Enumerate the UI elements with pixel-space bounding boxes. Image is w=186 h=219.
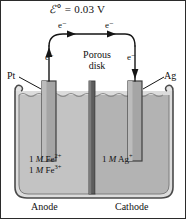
platinum-electrode-label: Pt xyxy=(7,71,15,82)
anode-conc-1: 1 xyxy=(29,154,34,164)
anode-molarity-1: M xyxy=(36,154,44,164)
silver-electrode-highlight xyxy=(128,81,133,161)
wire-arrowhead-left xyxy=(67,31,76,38)
porous-disk-highlight xyxy=(89,81,91,194)
cathode-conc-1: 1 xyxy=(102,154,107,164)
anode-solution-label: 1 M Fe2+ 1 M Fe3+ xyxy=(29,153,61,176)
wire-top-arc xyxy=(49,34,135,46)
silver-electrode-label: Ag xyxy=(164,71,176,82)
emf-symbol: ℰ° xyxy=(49,3,62,16)
anode-charge-2: 3+ xyxy=(55,163,62,170)
anode-label: Anode xyxy=(31,202,58,213)
anode-conc-2: 1 xyxy=(29,165,34,175)
silver-electrode xyxy=(128,81,142,161)
cathode-species-1: Ag xyxy=(118,154,129,164)
anode-species-2: Fe xyxy=(46,165,55,175)
porous-disk-label-line2: disk xyxy=(75,61,119,72)
cathode-molarity-1: M xyxy=(109,154,117,164)
cathode-label: Cathode xyxy=(115,202,148,213)
anode-charge-1: 2+ xyxy=(55,152,62,159)
wire-arrowhead-right xyxy=(107,31,116,38)
emf-equals: = xyxy=(65,3,71,15)
cathode-solution-line1: 1 M Ag+ xyxy=(102,153,133,164)
porous-disk-label-line1: Porous xyxy=(75,50,119,61)
cathode-charge-1: + xyxy=(129,152,133,159)
electron-label-lead-right: e⁻ xyxy=(127,53,136,62)
cell-potential-label: ℰ° = 0.03 V xyxy=(49,4,105,16)
cathode-solution-label: 1 M Ag+ xyxy=(102,153,133,164)
porous-disk xyxy=(89,81,95,194)
emf-unit: V xyxy=(97,3,105,15)
lead-arrowhead-right-down xyxy=(132,69,139,79)
cell-diagram-graphics xyxy=(1,1,186,219)
beaker-right-spout xyxy=(166,85,174,91)
anode-species-1: Fe xyxy=(46,154,55,164)
platinum-electrode-highlight xyxy=(42,81,47,161)
galvanic-cell-figure: ℰ° = 0.03 V e⁻ e⁻ e⁻ e⁻ Porous disk Pt A… xyxy=(0,0,186,219)
beaker-left-spout xyxy=(15,85,23,91)
porous-disk-label: Porous disk xyxy=(75,50,119,71)
platinum-electrode xyxy=(42,81,56,161)
electron-label-wire-left: e⁻ xyxy=(58,21,67,30)
anode-solution-line2: 1 M Fe3+ xyxy=(29,164,61,175)
emf-value: 0.03 xyxy=(74,3,94,15)
anode-molarity-2: M xyxy=(36,165,44,175)
ag-leader-line xyxy=(143,77,164,89)
electron-label-lead-left: e⁻ xyxy=(45,53,54,62)
electron-label-wire-right: e⁻ xyxy=(105,21,114,30)
